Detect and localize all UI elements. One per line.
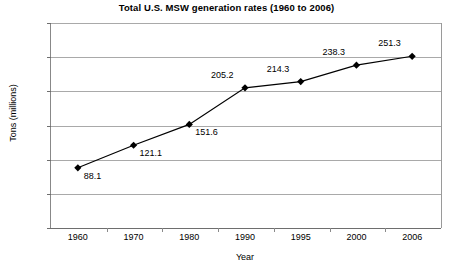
data-point-label: 88.1 xyxy=(84,172,102,181)
data-point-marker xyxy=(74,164,81,171)
y-axis-title: Tons (millions) xyxy=(8,53,18,173)
data-series-svg xyxy=(50,23,440,228)
data-point-label: 251.3 xyxy=(378,39,401,48)
x-tick-label: 1980 xyxy=(159,232,219,242)
data-point-marker xyxy=(186,121,193,128)
chart-container: Total U.S. MSW generation rates (1960 to… xyxy=(0,0,453,270)
series-line xyxy=(78,56,412,168)
chart-title: Total U.S. MSW generation rates (1960 to… xyxy=(0,2,453,13)
x-axis-title: Year xyxy=(50,252,440,262)
x-tick-label: 1995 xyxy=(271,232,331,242)
series-markers-group xyxy=(74,53,415,172)
data-point-marker xyxy=(353,62,360,69)
y-tick-mark xyxy=(47,228,51,229)
data-point-marker xyxy=(130,142,137,149)
data-point-marker xyxy=(409,53,416,60)
data-point-label: 205.2 xyxy=(211,71,234,80)
data-point-marker xyxy=(241,84,248,91)
x-tick-label: 2006 xyxy=(382,232,442,242)
data-point-label: 214.3 xyxy=(267,65,290,74)
data-point-label: 151.6 xyxy=(195,128,218,137)
data-point-marker xyxy=(297,78,304,85)
gridline xyxy=(51,228,441,229)
data-point-label: 121.1 xyxy=(140,149,163,158)
x-tick-label: 1990 xyxy=(215,232,275,242)
x-tick-label: 1970 xyxy=(104,232,164,242)
x-tick-label: 2000 xyxy=(326,232,386,242)
x-tick-label: 1960 xyxy=(48,232,108,242)
data-point-label: 238.3 xyxy=(322,48,345,57)
